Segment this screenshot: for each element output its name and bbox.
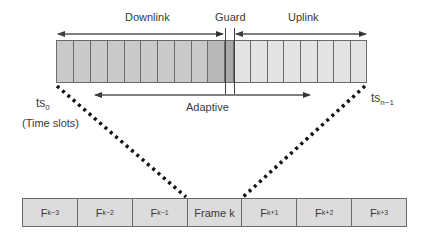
frame-k: Frame k [188,199,243,226]
adaptive-label: Adaptive [186,101,229,113]
frame-k-plus-1: Fk+1 [242,199,297,226]
ts-first-label: ts0 [36,96,50,112]
time-slots-label: (Time slots) [22,117,79,129]
ts-last-label: tsn−1 [371,91,394,107]
frame-k-minus-1: Fk−1 [133,199,188,226]
frame-k-minus-2: Fk−2 [78,199,133,226]
dotted-connector-left [57,86,186,197]
frame-k-plus-3: Fk+3 [352,199,406,226]
dotted-connector-right [243,86,365,197]
frame-k-plus-2: Fk+2 [297,199,352,226]
frame-sequence: Fk−3 Fk−2 Fk−1 Frame k Fk+1 Fk+2 Fk+3 [22,198,407,227]
frame-k-minus-3: Fk−3 [23,199,78,226]
